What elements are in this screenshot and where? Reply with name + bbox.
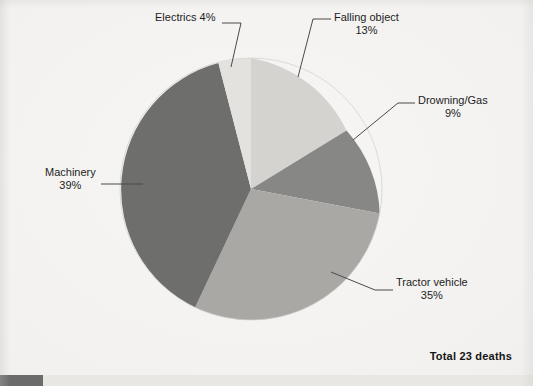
slice-label-drowning-gas: Drowning/Gas 9% — [418, 94, 488, 120]
leader-line-drowning-gas — [353, 103, 415, 140]
slice-label-falling-object: Falling object 13% — [334, 11, 399, 37]
slice-label-machinery: Machinery 39% — [45, 166, 96, 192]
slice-label-machinery-percent: 39% — [45, 179, 96, 192]
slice-label-tractor-vehicle: Tractor vehicle 35% — [396, 276, 468, 302]
slice-label-falling-object-name: Falling object — [334, 11, 399, 23]
corner-marker-bar — [0, 375, 43, 386]
slice-label-falling-object-percent: 13% — [334, 24, 399, 37]
slice-label-tractor-vehicle-percent: 35% — [396, 289, 468, 302]
slice-label-drowning-gas-percent: 9% — [418, 107, 488, 120]
bottom-strip — [0, 375, 533, 386]
total-deaths-note: Total 23 deaths — [430, 350, 512, 362]
slice-label-tractor-vehicle-name: Tractor vehicle — [396, 276, 468, 288]
pie-chart — [0, 0, 533, 386]
leader-line-falling-object — [298, 19, 331, 77]
chart-page: Electrics 4% Falling object 13% Drowning… — [0, 0, 533, 386]
slice-label-machinery-name: Machinery — [45, 166, 96, 178]
slice-label-electrics-text: Electrics 4% — [155, 11, 216, 23]
slice-label-drowning-gas-name: Drowning/Gas — [418, 94, 488, 106]
slice-label-electrics: Electrics 4% — [155, 11, 216, 24]
